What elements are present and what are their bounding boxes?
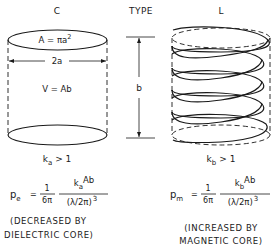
inductor-note-line2: MAGNETIC CORE) <box>179 236 262 245</box>
capacitor-k-condition: ka> 1 <box>43 154 72 167</box>
fraction2-numerator: kaAb <box>74 175 94 191</box>
svg-text:pm: pm <box>170 189 183 203</box>
helix-top-ellipse <box>172 28 270 48</box>
capacitor-note-line2: DIELECTRIC CORE) <box>4 230 94 240</box>
inductor-k-condition: kb> 1 <box>207 154 236 167</box>
fraction1-numerator: 1 <box>44 184 49 193</box>
power-subscript: m <box>176 195 183 203</box>
fraction1-numerator: 1 <box>205 184 210 193</box>
type-l-label: L <box>218 6 223 16</box>
fraction2-numerator: kbAb <box>235 175 256 191</box>
fraction1-denominator: 6π <box>203 196 213 205</box>
capacitor-note-line1: (DECREASED BY <box>10 216 87 226</box>
arrow-right-icon <box>101 59 106 63</box>
height-label: b <box>136 83 142 93</box>
fraction2-denominator: (λ/2π)3 <box>67 195 98 207</box>
fraction1-denominator: 6π <box>42 196 52 205</box>
area-formula: A = πa2 <box>39 33 72 45</box>
area-formula-base: A = πa <box>39 35 68 45</box>
inductor-helix-cylinder <box>172 27 270 145</box>
cylinder-bottom-ellipse <box>8 125 107 145</box>
diameter-label: 2a <box>52 56 63 66</box>
arrow-left-icon <box>9 59 14 63</box>
area-formula-exponent: 2 <box>67 33 71 41</box>
equals-sign: = <box>30 190 37 199</box>
electrically-small-antenna-diagram: C TYPE L A = πa2 2a V = Ab b <box>0 0 275 245</box>
fraction2-denominator: (λ/2π)3 <box>228 195 259 207</box>
svg-text:pe: pe <box>10 189 21 203</box>
inductor-note-line1: (INCREASED BY <box>184 223 258 233</box>
volume-formula: V = Ab <box>42 84 72 94</box>
type-c-label: C <box>54 6 60 16</box>
arrow-up-icon <box>137 38 141 43</box>
inductor-power-equation: pm = 1 6π kbAb (λ/2π)3 <box>170 175 270 207</box>
arrow-down-icon <box>137 132 141 137</box>
power-subscript: e <box>16 195 20 203</box>
capacitor-power-equation: pe = 1 6π kaAb (λ/2π)3 <box>10 175 108 207</box>
equals-sign: = <box>191 190 198 199</box>
diameter-dimension: 2a <box>9 56 106 66</box>
height-dimension: b <box>126 37 155 138</box>
type-header-label: TYPE <box>128 6 153 16</box>
